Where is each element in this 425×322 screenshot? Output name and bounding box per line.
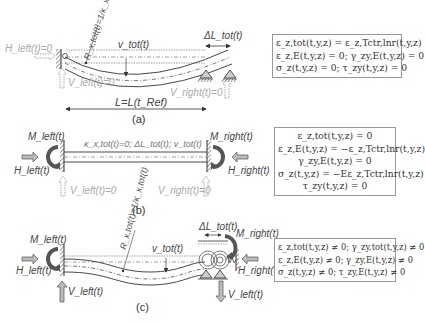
- h-right-label-b: H_right(t): [228, 166, 270, 176]
- m-left-label-c: M_left(t): [30, 235, 67, 245]
- v-left-label-c: V_left(t): [68, 287, 103, 297]
- elongation-label-a: ΔL_tot(t): [204, 31, 242, 41]
- equation: ε_z,tot(t,y,z) ≠ 0; γ_zy,tot(t,y,z) ≠ 0: [278, 241, 392, 254]
- panel-label-c: (c): [136, 301, 149, 313]
- v-right-label-a: V_right(t)=0: [170, 88, 223, 98]
- equation: τ_zy(t,y,z) = 0: [278, 180, 392, 193]
- equation-box-a: ε_z,tot(t,y,z) = ε_z,Tctr,lnr(t,y,z) ε_z…: [272, 34, 402, 78]
- equation: ε_z,E(t,y,z) ≠ 0; γ_zy,E(t,y,z) ≠ 0: [278, 254, 392, 267]
- equation: ε_z,tot(t,y,z) = 0: [278, 130, 392, 143]
- h-left-label-b: H_left(t): [14, 166, 50, 176]
- deflection-label-a: v_tot(t): [118, 40, 149, 50]
- m-right-label-c: M_right(t): [236, 229, 279, 239]
- panel-label-a: (a): [132, 113, 145, 125]
- h-left-label-c: H_left(t): [16, 266, 52, 276]
- deflection-label-c: v_tot(t): [152, 244, 183, 254]
- left-wall-hatch-icon: [56, 49, 61, 69]
- m-left-label-b: M_left(t): [28, 132, 65, 142]
- equation: ε_z,E(t,y,z) = 0; γ_zy,E(t,y,z) = 0: [276, 50, 398, 63]
- equation: ε_z,tot(t,y,z) = ε_z,Tctr,lnr(t,y,z): [276, 37, 398, 50]
- equation: σ_z(t,y,z) = 0; τ_zy(t,y,z) = 0: [276, 62, 398, 75]
- equation-box-c: ε_z,tot(t,y,z) ≠ 0; γ_zy,tot(t,y,z) ≠ 0 …: [274, 238, 396, 282]
- length-label: L=L(t_Ref): [115, 97, 167, 108]
- v-left-label-a: V_left(t)=0: [68, 78, 114, 88]
- equation: σ_z(t,y,z) ≠ 0; τ_zy,E(t,y,z) ≠ 0: [278, 266, 392, 279]
- v-right-label-b: V_right(t)=0: [158, 186, 211, 196]
- equation: ε_z,E(t,y,z) = −ε_z,Tctr,lnr(t,y,z): [278, 143, 392, 156]
- h-left-label-a: H_left(t)=0: [5, 44, 52, 54]
- equation: σ_z(t,y,z) = −Eε_z,Tctr,lnr(t,y,z): [278, 168, 392, 181]
- elongation-label-c: ΔL_tot(t): [199, 222, 237, 232]
- beam-state-label-b: κ_x,tot(t)=0; ΔL_tot(t); v_tot(t): [84, 140, 202, 149]
- m-right-label-b: M_right(t): [210, 132, 253, 142]
- v-right-label-c: V_left(t): [228, 290, 263, 300]
- v-left-label-b: V_left(t)=0: [70, 186, 116, 196]
- equation: γ_zy,E(t,y,z) = 0: [278, 155, 392, 168]
- equation-box-b: ε_z,tot(t,y,z) = 0 ε_z,E(t,y,z) = −ε_z,T…: [274, 127, 396, 196]
